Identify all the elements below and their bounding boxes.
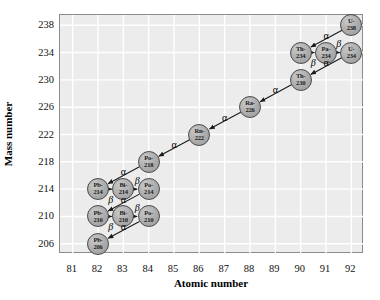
- decay-series-figure: Mass number Atomic number 20621021421822…: [0, 0, 380, 300]
- decay-mode-label-alpha: α: [121, 166, 126, 177]
- decay-mode-label-alpha: α: [171, 139, 176, 150]
- decay-mode-label-alpha: α: [222, 111, 227, 122]
- decay-mode-label-beta: β: [135, 201, 140, 212]
- nuclide-mass-label: 234: [347, 53, 356, 60]
- plot-area: U-238Th-234Pa-234U-234Th-230Ra-226Rn-222…: [59, 14, 363, 253]
- nuclide-mass-label: 210: [93, 217, 102, 224]
- nuclide-mass-label: 226: [245, 107, 254, 114]
- y-tick-label: 214: [26, 183, 54, 194]
- decay-mode-label-beta: β: [108, 221, 113, 232]
- decay-mode-label-alpha: α: [323, 57, 328, 68]
- nuclide-node-pb210[interactable]: Pb-210: [87, 205, 109, 227]
- y-tick-label: 218: [26, 155, 54, 166]
- decay-mode-label-alpha: α: [323, 29, 328, 40]
- y-tick-label: 210: [26, 210, 54, 221]
- nuclide-mass-label: 214: [93, 189, 102, 196]
- nuclide-mass-label: 238: [347, 25, 356, 32]
- decay-mode-label-beta: β: [135, 174, 140, 185]
- x-axis-title: Atomic number: [174, 277, 248, 289]
- decay-mode-label-alpha: α: [121, 221, 126, 232]
- nuclide-node-u234[interactable]: U-234: [340, 42, 362, 64]
- y-tick-label: 230: [26, 73, 54, 84]
- x-tick-label: 81: [66, 263, 77, 274]
- x-tick-label: 82: [92, 263, 103, 274]
- nuclide-mass-label: 222: [195, 135, 204, 142]
- nuclide-node-th230[interactable]: Th-230: [290, 69, 312, 91]
- x-tick-label: 91: [320, 263, 331, 274]
- decay-mode-label-alpha: α: [273, 84, 278, 95]
- nuclide-node-rn222[interactable]: Rn-222: [188, 124, 210, 146]
- nuclide-node-po218[interactable]: Po-218: [138, 151, 160, 173]
- y-tick-label: 222: [26, 128, 54, 139]
- x-tick-label: 92: [345, 263, 356, 274]
- nuclide-node-po214[interactable]: Po-214: [138, 178, 160, 200]
- decay-mode-label-beta: β: [311, 57, 316, 68]
- x-tick-label: 84: [142, 263, 153, 274]
- nuclide-node-pb206[interactable]: Pb-206: [87, 233, 109, 255]
- nuclide-node-u238[interactable]: U-238: [340, 14, 362, 36]
- nuclide-mass-label: 210: [144, 217, 153, 224]
- x-tick-label: 83: [117, 263, 128, 274]
- x-tick-label: 90: [294, 263, 305, 274]
- x-tick-label: 89: [269, 263, 280, 274]
- nuclide-node-pb214[interactable]: Pb-214: [87, 178, 109, 200]
- y-tick-label: 234: [26, 46, 54, 57]
- nuclide-node-th234[interactable]: Th-234: [290, 42, 312, 64]
- y-tick-label: 226: [26, 101, 54, 112]
- decay-mode-label-alpha: α: [121, 193, 126, 204]
- nuclide-mass-label: 206: [93, 244, 102, 251]
- y-tick-label: 206: [26, 237, 54, 248]
- x-tick-label: 88: [244, 263, 255, 274]
- nuclide-mass-label: 214: [144, 189, 153, 196]
- decay-mode-label-beta: β: [108, 193, 113, 204]
- nuclide-node-po210[interactable]: Po-210: [138, 205, 160, 227]
- y-axis-title: Mass number: [2, 102, 14, 166]
- x-tick-label: 87: [218, 263, 229, 274]
- x-tick-label: 85: [168, 263, 179, 274]
- x-tick-label: 86: [193, 263, 204, 274]
- nuclide-mass-label: 230: [296, 80, 305, 87]
- nuclide-node-ra226[interactable]: Ra-226: [239, 96, 261, 118]
- nuclide-mass-label: 234: [296, 53, 305, 60]
- y-tick-label: 238: [26, 19, 54, 30]
- decay-mode-label-beta: β: [336, 37, 341, 48]
- nuclide-mass-label: 218: [144, 162, 153, 169]
